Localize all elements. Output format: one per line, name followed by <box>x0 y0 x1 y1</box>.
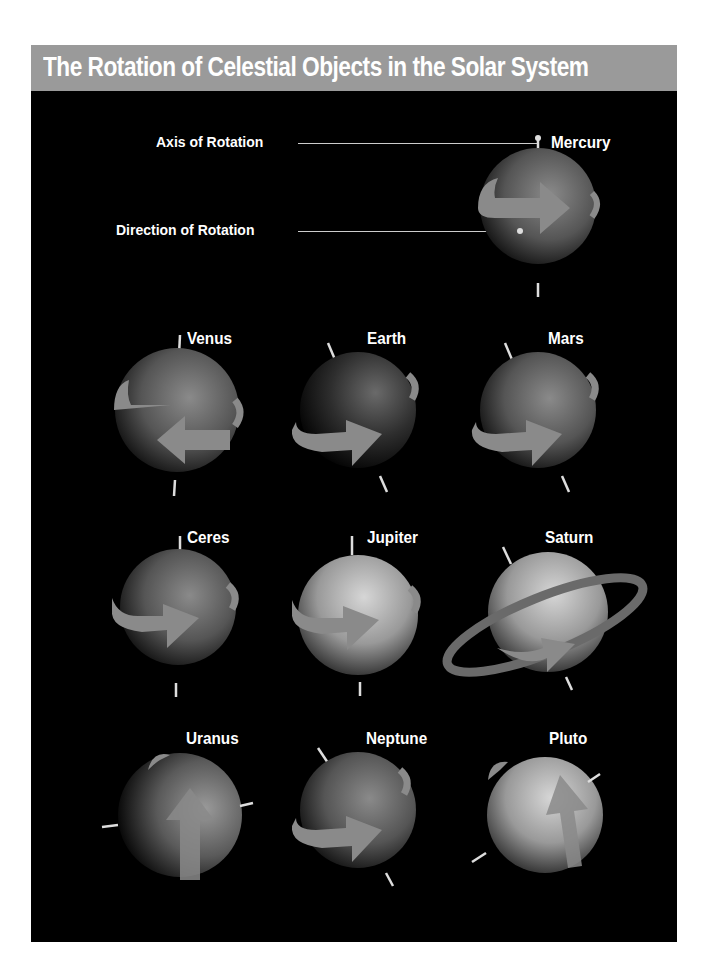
ceres-planet <box>112 536 236 697</box>
earth-planet <box>292 343 416 492</box>
jupiter-planet <box>292 536 418 696</box>
pluto-planet <box>472 757 603 873</box>
neptune-planet <box>292 748 416 886</box>
saturn-planet <box>437 547 653 690</box>
uranus-planet <box>102 753 253 880</box>
mars-planet <box>472 343 596 492</box>
venus-planet <box>114 335 240 496</box>
mercury-planet <box>478 135 597 297</box>
planets-illustration <box>0 0 706 954</box>
